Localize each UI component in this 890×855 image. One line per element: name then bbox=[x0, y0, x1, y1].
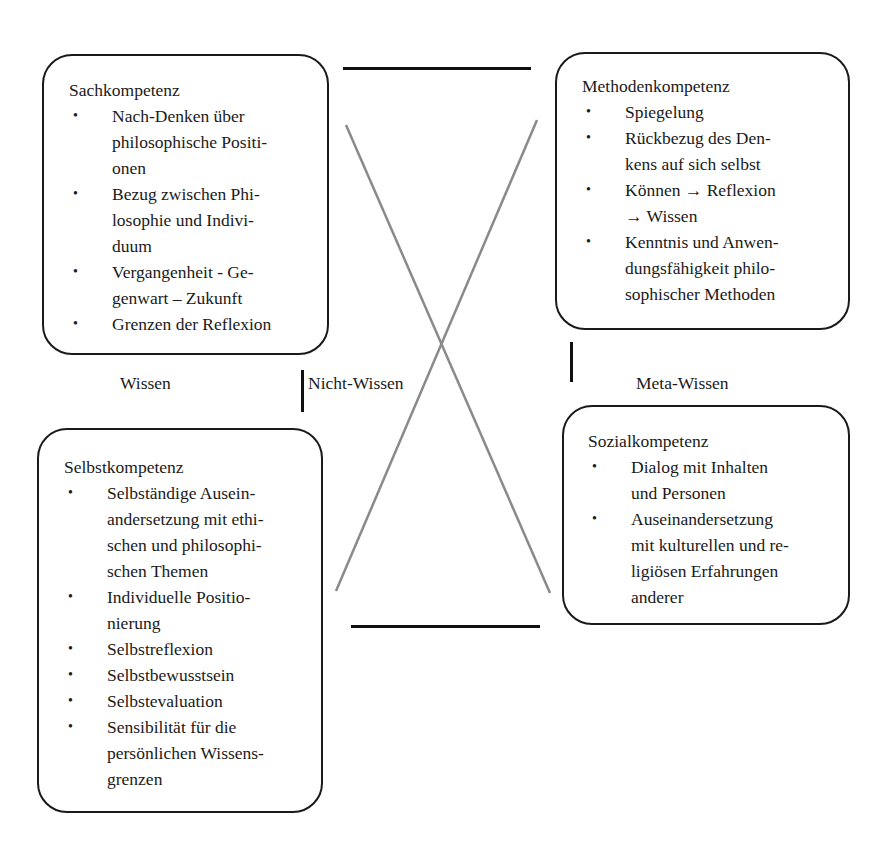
bullet-icon: • bbox=[68, 636, 73, 662]
list-item: •Kenntnis und Anwen- dungsfähigkeit phil… bbox=[581, 229, 846, 307]
bullet-icon: • bbox=[592, 454, 597, 480]
list-sozialkompetenz: •Dialog mit Inhalten und Personen •Ausei… bbox=[587, 454, 847, 610]
bullet-icon: • bbox=[73, 311, 78, 337]
box-title-methodenkompetenz: Methodenkompetenz bbox=[582, 73, 730, 99]
list-item: •Selbständige Ausein- andersetzung mit e… bbox=[63, 480, 321, 584]
top-connector-line bbox=[343, 67, 531, 70]
label-meta-wissen: Meta-Wissen bbox=[636, 372, 729, 394]
list-item: •Grenzen der Reflexion bbox=[68, 311, 326, 337]
cross-line-ascending bbox=[336, 120, 537, 591]
bullet-icon: • bbox=[73, 259, 78, 285]
bullet-icon: • bbox=[73, 181, 78, 207]
bullet-icon: • bbox=[586, 177, 591, 203]
list-selbstkompetenz: •Selbständige Ausein- andersetzung mit e… bbox=[63, 480, 321, 792]
bullet-icon: • bbox=[73, 103, 78, 129]
cross-line-descending bbox=[346, 125, 550, 593]
list-methodenkompetenz: •Spiegelung •Rückbezug des Den- kens auf… bbox=[581, 99, 846, 307]
label-wissen: Wissen bbox=[120, 372, 171, 394]
list-item: •Selbstreflexion bbox=[63, 636, 321, 662]
list-item: •Rückbezug des Den- kens auf sich selbst bbox=[581, 125, 846, 177]
box-title-sachkompetenz: Sachkompetenz bbox=[69, 77, 180, 103]
list-item: •Können → Reflexion → Wissen bbox=[581, 177, 846, 229]
list-item: •Bezug zwischen Phi- losophie und Indivi… bbox=[68, 181, 326, 259]
list-sachkompetenz: •Nach-Denken über philosophische Positi-… bbox=[68, 103, 326, 337]
list-item: •Spiegelung bbox=[581, 99, 846, 125]
right-connector-line bbox=[570, 342, 573, 382]
list-item: •Selbstbewusstsein bbox=[63, 662, 321, 688]
list-item: •Dialog mit Inhalten und Personen bbox=[587, 454, 847, 506]
list-item: •Vergangenheit - Ge- genwart – Zukunft bbox=[68, 259, 326, 311]
bullet-icon: • bbox=[586, 125, 591, 151]
bullet-icon: • bbox=[68, 480, 73, 506]
bottom-connector-line bbox=[351, 625, 540, 628]
bullet-icon: • bbox=[68, 714, 73, 740]
bullet-icon: • bbox=[68, 584, 73, 610]
bullet-icon: • bbox=[592, 506, 597, 532]
list-item: •Sensibilität für die persönlichen Wisse… bbox=[63, 714, 321, 792]
label-nicht-wissen: Nicht-Wissen bbox=[308, 372, 404, 394]
bullet-icon: • bbox=[586, 229, 591, 255]
box-title-sozialkompetenz: Sozialkompetenz bbox=[588, 428, 709, 454]
list-item: •Individuelle Positio- nierung bbox=[63, 584, 321, 636]
list-item: •Selbstevaluation bbox=[63, 688, 321, 714]
box-title-selbstkompetenz: Selbstkompetenz bbox=[64, 454, 184, 480]
bullet-icon: • bbox=[586, 99, 591, 125]
list-item: •Auseinandersetzung mit kulturellen und … bbox=[587, 506, 847, 610]
list-item: •Nach-Denken über philosophische Positi-… bbox=[68, 103, 326, 181]
left-connector-line bbox=[301, 370, 304, 412]
bullet-icon: • bbox=[68, 662, 73, 688]
bullet-icon: • bbox=[68, 688, 73, 714]
